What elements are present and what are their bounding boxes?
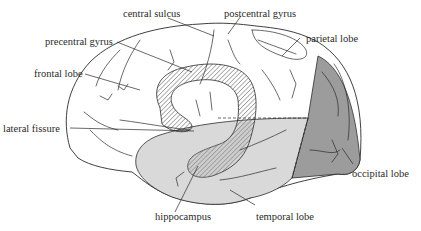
label-hippocampus: hippocampus — [155, 211, 211, 222]
label-frontal-lobe: frontal lobe — [34, 68, 83, 79]
label-precentral-gyrus: precentral gyrus — [45, 36, 113, 47]
label-lateral-fissure: lateral fissure — [3, 123, 60, 134]
label-temporal-lobe: temporal lobe — [256, 211, 314, 222]
label-occipital-lobe: occipital lobe — [352, 168, 409, 179]
label-postcentral-gyrus: postcentral gyrus — [224, 8, 296, 19]
brain-illustration: central sulcus postcentral gyrus precent… — [0, 0, 421, 231]
label-central-sulcus: central sulcus — [123, 8, 180, 19]
parietal-gyrus-loop — [252, 30, 307, 59]
label-parietal-lobe: parietal lobe — [306, 33, 359, 44]
brain-diagram: central sulcus postcentral gyrus precent… — [0, 0, 421, 231]
